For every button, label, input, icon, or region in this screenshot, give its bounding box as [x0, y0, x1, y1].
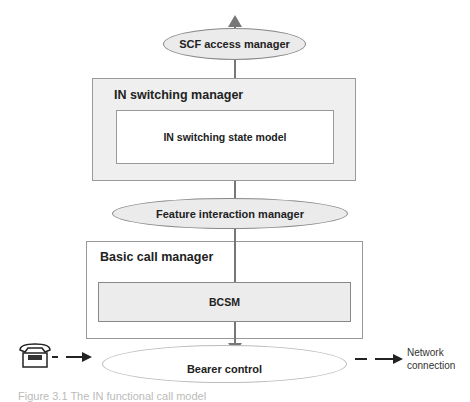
- network-connection-label: Network connection: [407, 346, 455, 372]
- outgoing-dashed-arrow: [355, 353, 407, 365]
- scf-access-manager: SCF access manager: [163, 28, 306, 60]
- in-switching-state-model-box: IN switching state model: [116, 110, 334, 164]
- bearer-control: Bearer control: [102, 345, 347, 383]
- telephone-icon: [18, 343, 52, 369]
- fim-to-bcsm-line: [234, 229, 236, 282]
- bcsm-to-bearer-line: [234, 322, 236, 344]
- bearer-control-label: Bearer control: [187, 363, 262, 375]
- incoming-dashed-arrow: [52, 351, 98, 363]
- network-connection-line2: connection: [407, 359, 455, 372]
- feature-interaction-manager-label: Feature interaction manager: [156, 208, 304, 220]
- bcsm-label: BCSM: [209, 296, 240, 308]
- scf-access-manager-label: SCF access manager: [179, 38, 290, 50]
- network-connection-line1: Network: [407, 346, 455, 359]
- feature-interaction-manager: Feature interaction manager: [112, 198, 348, 229]
- in-switching-manager-label: IN switching manager: [114, 88, 243, 102]
- figure-caption: Figure 3.1 The IN functional call model: [18, 390, 206, 402]
- basic-call-manager-label: Basic call manager: [100, 250, 213, 264]
- scf-to-isw-line: [234, 60, 236, 78]
- up-arrow-icon: [228, 15, 242, 27]
- bcsm-box: BCSM: [98, 282, 351, 322]
- in-switching-state-model-label: IN switching state model: [163, 131, 286, 143]
